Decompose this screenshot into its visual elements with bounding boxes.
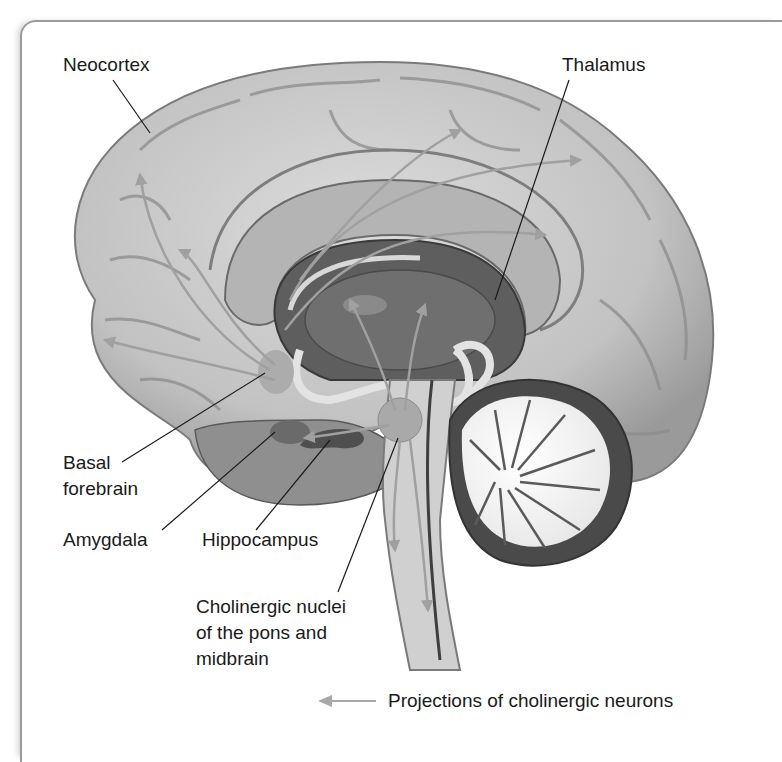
thalamus (305, 270, 495, 370)
label-cholinergic-2: of the pons and (196, 620, 327, 646)
label-basal-forebrain-1: Basal (63, 450, 111, 476)
label-neocortex: Neocortex (63, 52, 150, 78)
legend-label: Projections of cholinergic neurons (388, 690, 673, 712)
basal-forebrain-nucleus (258, 350, 294, 394)
label-cholinergic-1: Cholinergic nuclei (196, 594, 346, 620)
label-thalamus: Thalamus (562, 52, 645, 78)
label-cholinergic-3: midbrain (196, 646, 269, 672)
legend-arrow-icon (318, 694, 378, 708)
cholinergic-nuclei (378, 398, 422, 442)
legend: Projections of cholinergic neurons (318, 690, 673, 712)
label-amygdala: Amygdala (63, 527, 148, 553)
amygdala-structure (270, 420, 310, 444)
cerebellum (449, 380, 632, 566)
label-hippocampus: Hippocampus (202, 527, 318, 553)
label-basal-forebrain-2: forebrain (63, 476, 138, 502)
